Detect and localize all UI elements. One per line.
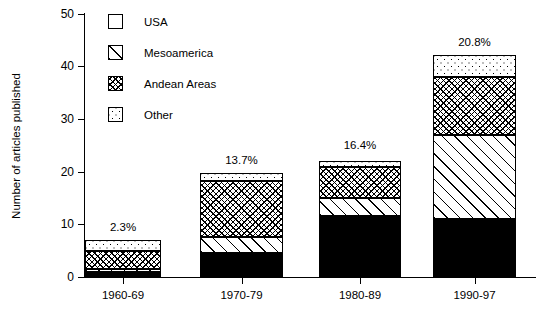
bar-percentage-label: 20.8% — [435, 36, 515, 48]
legend-label: Other — [144, 108, 173, 122]
bar-segment-andean-areas[interactable] — [85, 251, 161, 269]
y-tick-mark — [78, 66, 84, 67]
bar-percentage-label: 13.7% — [202, 154, 282, 166]
legend-swatch-icon — [108, 76, 123, 91]
bar-segment-mesoamerica[interactable] — [319, 198, 401, 216]
y-tick-label: 0 — [48, 271, 74, 283]
legend-swatch-icon — [108, 107, 123, 122]
x-tick-mark — [360, 278, 361, 284]
legend-item-mesoamerica[interactable]: Mesoamerica — [108, 45, 288, 61]
y-axis-label: Number of articles published — [10, 46, 22, 246]
y-tick-label: 30 — [48, 113, 74, 125]
y-tick-mark — [78, 172, 84, 173]
legend-swatch-icon — [108, 14, 123, 29]
bar-1990-97[interactable] — [433, 55, 516, 277]
x-tick-mark — [242, 278, 243, 284]
legend-swatch-icon — [108, 45, 123, 60]
chart-legend: USAMesoamericaAndean AreasOther — [108, 14, 288, 138]
x-tick-mark — [123, 278, 124, 284]
y-tick-mark — [78, 119, 84, 120]
bar-percentage-label: 2.3% — [83, 221, 163, 233]
y-tick-label: 40 — [48, 60, 74, 72]
bar-1980-89[interactable] — [319, 158, 401, 277]
x-tick-label-1960-69: 1960-69 — [78, 289, 168, 301]
bar-segment-andean-areas[interactable] — [319, 167, 401, 198]
legend-label: Mesoamerica — [144, 46, 213, 60]
legend-item-andean-areas[interactable]: Andean Areas — [108, 76, 288, 92]
y-tick-label: 20 — [48, 166, 74, 178]
chart-root: Number of articles published 01020304050… — [0, 0, 545, 310]
bar-segment-usa[interactable] — [200, 253, 283, 277]
bar-1960-69[interactable] — [85, 240, 161, 277]
x-tick-label-1980-89: 1980-89 — [315, 289, 405, 301]
bar-segment-andean-areas[interactable] — [200, 181, 283, 237]
y-tick-label: 10 — [48, 218, 74, 230]
y-tick-mark — [78, 277, 84, 278]
y-axis-line — [84, 13, 85, 278]
bar-segment-andean-areas[interactable] — [433, 77, 516, 135]
legend-label: USA — [144, 15, 168, 29]
x-tick-label-1990-97: 1990-97 — [430, 289, 520, 301]
bar-percentage-label: 16.4% — [320, 139, 400, 151]
bar-segment-other[interactable] — [85, 240, 161, 251]
bar-1970-79[interactable] — [200, 173, 283, 277]
legend-item-usa[interactable]: USA — [108, 14, 288, 30]
bar-segment-other[interactable] — [433, 55, 516, 77]
bar-segment-usa[interactable] — [85, 272, 161, 277]
x-axis-line — [84, 277, 536, 278]
x-tick-label-1970-79: 1970-79 — [197, 289, 287, 301]
legend-label: Andean Areas — [144, 77, 216, 91]
bar-segment-other[interactable] — [319, 161, 401, 167]
y-tick-mark — [78, 14, 84, 15]
x-tick-mark — [475, 278, 476, 284]
y-tick-label: 50 — [48, 8, 74, 20]
bar-segment-mesoamerica[interactable] — [433, 135, 516, 219]
bar-segment-mesoamerica[interactable] — [85, 269, 161, 272]
legend-item-other[interactable]: Other — [108, 107, 288, 123]
bar-segment-usa[interactable] — [319, 216, 401, 277]
bar-segment-mesoamerica[interactable] — [200, 237, 283, 253]
bar-segment-other[interactable] — [200, 173, 283, 181]
bar-segment-usa[interactable] — [433, 219, 516, 277]
